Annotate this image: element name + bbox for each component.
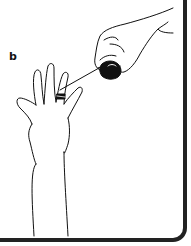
illustration-panel: b <box>0 0 191 246</box>
hand-spray-illustration <box>0 0 191 246</box>
spraying-hand-icon <box>95 8 173 79</box>
hand-with-ring-icon <box>17 64 82 236</box>
